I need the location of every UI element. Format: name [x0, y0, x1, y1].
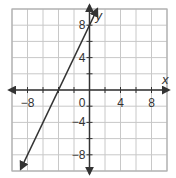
x-tick-label: 4 — [117, 96, 124, 110]
x-tick-label: −8 — [21, 96, 35, 110]
y-tick-label: 8 — [79, 18, 86, 32]
y-tick-label: −8 — [72, 148, 86, 162]
y-tick-label: 4 — [79, 51, 86, 65]
coordinate-plane: −84884−4−80 x y — [0, 0, 176, 178]
axes — [9, 5, 169, 174]
y-tick-label: −4 — [72, 115, 86, 129]
x-axis-label: x — [161, 72, 169, 87]
origin-label: 0 — [79, 96, 86, 110]
y-axis-label: y — [95, 8, 104, 23]
x-tick-label: 8 — [148, 96, 155, 110]
